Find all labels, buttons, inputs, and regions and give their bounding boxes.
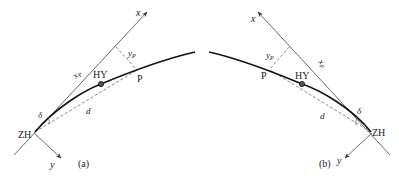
panel-a: x y ZH HY P δ d xP yP (a): [14, 7, 195, 170]
origin-label-zh: ZH: [372, 127, 385, 138]
chord-d-label: d: [86, 106, 91, 116]
x-axis-line: [258, 12, 390, 155]
spiral-curve: [35, 52, 195, 132]
delta-label: δ: [357, 106, 362, 116]
hy-point: [299, 81, 304, 86]
caption-b: (b): [319, 158, 331, 170]
y-axis-line: [345, 133, 372, 158]
hy-point: [98, 81, 103, 86]
chord-d: [35, 70, 137, 132]
hy-label: HY: [295, 70, 309, 81]
hy-label: HY: [93, 69, 107, 80]
p-label: P: [137, 73, 143, 84]
xp-label: xP: [315, 56, 329, 70]
y-axis-label: y: [336, 155, 342, 166]
xp-label: xP: [69, 68, 83, 82]
panel-b: x y ZH HY P δ d xP yP (b): [209, 12, 390, 170]
spiral-curve: [209, 52, 371, 132]
y-axis-line: [34, 133, 61, 158]
x-axis-label: x: [135, 7, 141, 18]
caption-a: (a): [78, 158, 89, 170]
origin-label-zh: ZH: [18, 129, 31, 140]
y-axis-label: y: [49, 159, 55, 170]
svg-text:xP: xP: [69, 68, 83, 82]
p-label: P: [261, 70, 267, 81]
spiral-curve-diagram: x y ZH HY P δ d xP yP (a) x y ZH HY P δ: [0, 0, 399, 189]
delta-label: δ: [38, 110, 43, 120]
x-axis-label: x: [250, 13, 256, 24]
yp-label: yP: [127, 48, 136, 59]
angle-arc: [356, 118, 357, 125]
yp-label: yP: [265, 50, 274, 61]
x-axis-line: [14, 12, 147, 155]
chord-d-label: d: [320, 111, 325, 121]
svg-text:xP: xP: [315, 56, 329, 70]
